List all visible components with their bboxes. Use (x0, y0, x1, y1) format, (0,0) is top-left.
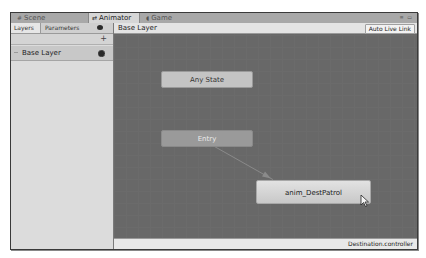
breadcrumb-bar: Base Layer Auto Live Link (114, 23, 417, 34)
game-icon: ◖ (146, 13, 149, 23)
state-entry[interactable]: Entry (161, 130, 253, 147)
controller-filename: Destination.controller (348, 239, 413, 249)
layer-item-base-layer[interactable]: Base Layer (11, 46, 113, 61)
scene-icon: # (17, 13, 22, 23)
state-machine-graph[interactable]: Base Layer Auto Live Link Any State Entr… (114, 23, 417, 239)
animator-icon: ⇄ (92, 13, 97, 23)
add-layer-row: + (11, 34, 113, 45)
auto-live-link-button[interactable]: Auto Live Link (365, 24, 415, 34)
state-any-state[interactable]: Any State (161, 71, 253, 88)
tab-game[interactable]: ◖Game (143, 13, 203, 23)
tab-animator[interactable]: ⇄Animator (88, 13, 140, 23)
layer-label: Base Layer (22, 46, 61, 60)
window-menu-icon[interactable]: ≡ ▭ (399, 14, 413, 22)
state-anim-destpatrol[interactable]: anim_DestPatrol (256, 180, 371, 204)
gear-icon[interactable] (98, 50, 105, 57)
animator-window: #Scene ⇄Animator ◖Game ≡ ▭ Layers Parame… (10, 12, 418, 250)
tab-scene-label: Scene (24, 14, 45, 22)
add-layer-button[interactable]: + (100, 34, 107, 44)
cursor-icon (360, 195, 370, 207)
tab-layers[interactable]: Layers (11, 23, 41, 33)
breadcrumb[interactable]: Base Layer (118, 23, 157, 33)
tab-game-label: Game (151, 14, 172, 22)
tab-parameters[interactable]: Parameters (42, 23, 88, 33)
tab-animator-label: Animator (99, 14, 131, 22)
eye-icon[interactable] (97, 25, 103, 30)
transition-arrow[interactable] (114, 23, 417, 239)
tab-scene[interactable]: #Scene (14, 13, 88, 23)
layers-panel: Layers Parameters + Base Layer (11, 23, 114, 249)
drag-handle-icon[interactable] (14, 52, 18, 53)
status-bar: Destination.controller (114, 238, 417, 249)
panel-tabs: Layers Parameters (11, 23, 113, 34)
